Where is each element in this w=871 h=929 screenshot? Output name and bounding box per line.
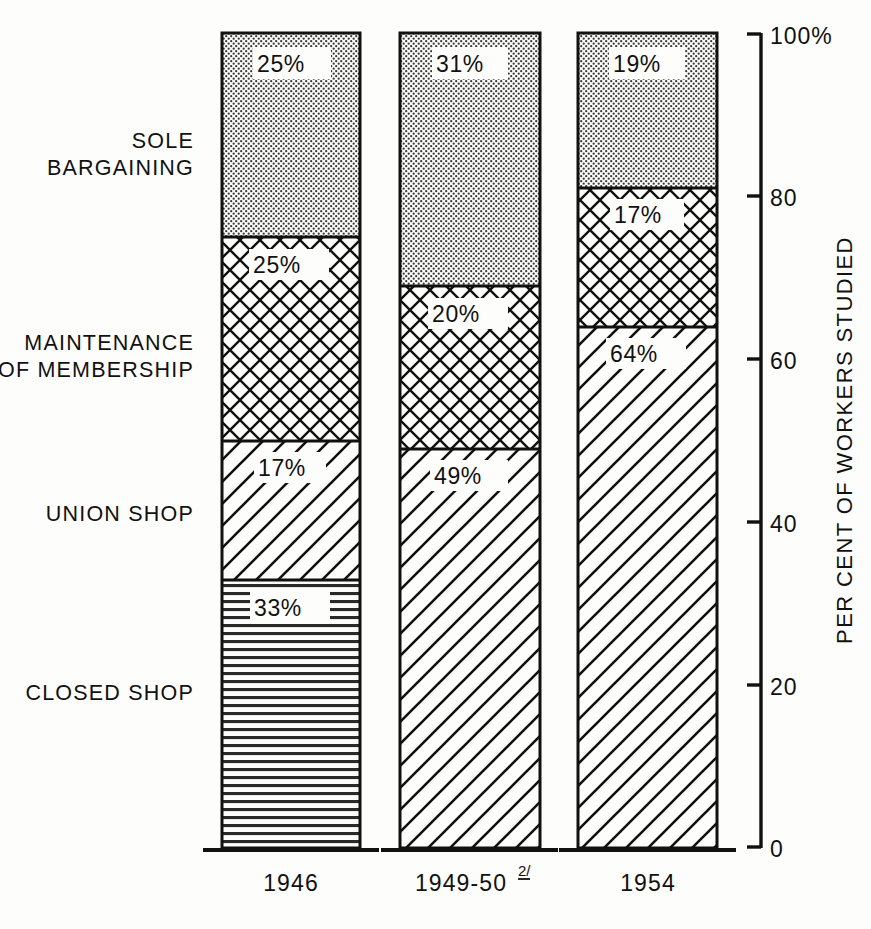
category-legend-labels: SOLE BARGAINING MAINTENANCE OF MEMBERSHI… <box>0 129 194 705</box>
stacked-bar-chart: 25% 25% 17% 33% <box>0 0 871 929</box>
segment-value-label: 20% <box>432 301 480 327</box>
y-tick-label: 0 <box>770 836 784 862</box>
y-tick-label: 60 <box>770 348 798 374</box>
bar-segment-maintenance-1954[interactable]: 17% <box>578 188 717 327</box>
svg-text:BARGAINING: BARGAINING <box>47 156 194 180</box>
segment-value-label: 25% <box>253 252 301 278</box>
segment-value-label: 49% <box>434 463 482 489</box>
segment-value-label: 19% <box>613 51 661 77</box>
x-label-footnote-marker: 2/ <box>518 862 531 879</box>
svg-text:OF MEMBERSHIP: OF MEMBERSHIP <box>0 358 194 382</box>
legend-label-sole-bargaining: SOLE BARGAINING <box>47 129 194 180</box>
y-axis-title: PER CENT OF WORKERS STUDIED <box>832 236 857 644</box>
bar-segment-union-shop-1954[interactable]: 64% <box>578 327 717 848</box>
svg-text:SOLE: SOLE <box>132 129 194 153</box>
y-axis: 100% 80 60 40 20 0 PER CENT OF WORKERS S… <box>747 23 857 862</box>
x-axis-labels: 1946 1949-50 2/ 1954 <box>263 862 676 896</box>
legend-label-closed-shop: CLOSED SHOP <box>25 681 194 705</box>
bar-segment-maintenance-1946[interactable]: 25% <box>222 237 360 441</box>
bar-group-1954[interactable]: 19% 17% 64% <box>559 33 736 850</box>
y-tick-label: 40 <box>770 511 798 537</box>
segment-value-label: 31% <box>436 51 484 77</box>
segment-value-label: 17% <box>258 455 306 481</box>
chart-container: 25% 25% 17% 33% <box>0 0 871 929</box>
y-tick-label: 100% <box>770 23 833 49</box>
x-label-1949-50: 1949-50 <box>415 870 507 896</box>
legend-label-maintenance-of-membership: MAINTENANCE OF MEMBERSHIP <box>0 331 194 382</box>
bar-segment-sole-bargaining-1954[interactable]: 19% <box>578 33 717 188</box>
x-label-1946: 1946 <box>263 870 319 896</box>
bar-segment-union-shop-1949-50[interactable]: 49% <box>400 449 540 848</box>
segment-value-label: 25% <box>257 51 305 77</box>
bar-segment-sole-bargaining-1949-50[interactable]: 31% <box>400 33 540 286</box>
segment-value-label: 17% <box>614 202 662 228</box>
y-tick-label: 80 <box>770 185 798 211</box>
segment-value-label: 33% <box>254 595 302 621</box>
legend-label-union-shop: UNION SHOP <box>46 502 194 526</box>
segment-value-label: 64% <box>610 341 658 367</box>
bar-segment-sole-bargaining-1946[interactable]: 25% <box>222 33 360 237</box>
bar-segment-union-shop-1946[interactable]: 17% <box>222 441 360 580</box>
svg-text:UNION SHOP: UNION SHOP <box>46 502 194 526</box>
bar-group-1949-50[interactable]: 31% 20% 49% <box>381 33 558 850</box>
bar-segment-closed-shop-1946[interactable]: 33% <box>222 580 360 848</box>
svg-text:CLOSED SHOP: CLOSED SHOP <box>25 681 194 705</box>
x-label-1954: 1954 <box>620 870 676 896</box>
bar-segment-maintenance-1949-50[interactable]: 20% <box>400 286 540 449</box>
bar-group-1946[interactable]: 25% 25% 17% 33% <box>203 33 379 850</box>
y-tick-label: 20 <box>770 674 798 700</box>
svg-text:MAINTENANCE: MAINTENANCE <box>24 331 194 355</box>
